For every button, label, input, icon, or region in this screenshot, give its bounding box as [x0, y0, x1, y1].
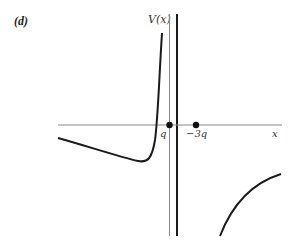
- charge-minus-3q-label: −3q: [186, 128, 207, 139]
- panel-label: (d): [14, 14, 28, 28]
- y-axis-label: V(x): [148, 13, 171, 26]
- x-axis-label: x: [272, 128, 278, 139]
- charge-q-dot: [166, 122, 172, 128]
- potential-diagram: (d) V(x) q −3q x: [0, 0, 296, 244]
- charge-q-label: q: [160, 128, 166, 139]
- potential-curve-right: [220, 174, 281, 236]
- potential-curve-left: [58, 33, 162, 161]
